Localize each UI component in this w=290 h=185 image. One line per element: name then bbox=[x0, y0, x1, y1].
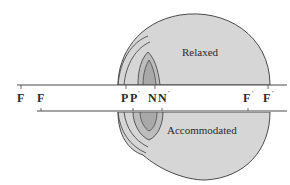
label-F-accommodated: F bbox=[17, 91, 24, 105]
label-P: P bbox=[121, 91, 128, 105]
label-accommodated: Accommodated bbox=[167, 124, 237, 136]
label-P-prime: P bbox=[130, 91, 137, 105]
label-F-relaxed: F bbox=[37, 91, 44, 105]
label-F-prime-relaxed: F bbox=[263, 91, 270, 105]
label-F-prime-accommodated: F bbox=[243, 91, 250, 105]
label-N-prime: N bbox=[158, 91, 167, 105]
eye-diagram: F F P P ' N N ' F ' F ' Relaxed Accommod… bbox=[0, 0, 290, 185]
label-relaxed: Relaxed bbox=[182, 46, 219, 58]
label-N: N bbox=[148, 91, 157, 105]
